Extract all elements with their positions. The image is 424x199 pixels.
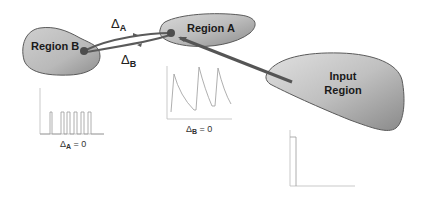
region-a-plot-caption: ΔB = 0 [186,124,212,135]
plot-line [40,112,104,134]
network-diagram: Region B Region A Input Region ΔA ΔB [0,0,424,199]
region-a-node [167,29,175,37]
svg-text:ΔA: ΔA [111,16,127,33]
connection-input-to-a [178,37,292,82]
svg-text:ΔB: ΔB [121,52,137,69]
region-b-plot-caption: ΔA = 0 [60,139,86,150]
region-b-activity-plot: ΔA = 0 [40,88,104,150]
region-a: Region A [160,14,255,47]
delta-b-label: ΔB [121,52,137,69]
region-b-label: Region B [31,40,79,52]
plot-line [290,137,296,186]
delta-a-label: ΔA [111,16,127,33]
region-a-label: Region A [187,22,235,34]
plot-line [171,67,231,112]
input-region: Input Region [266,53,404,131]
region-b-node [80,47,88,55]
connection-a-to-b [86,33,170,50]
input-region-activity-plot [290,130,355,186]
input-region-label-line1: Input [330,70,357,82]
region-a-activity-plot: ΔB = 0 [167,66,232,135]
input-region-label-line2: Region [324,84,362,96]
